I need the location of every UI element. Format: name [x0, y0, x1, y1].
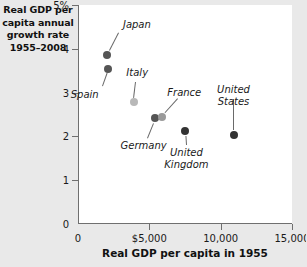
data-point-label-line: States — [217, 96, 250, 108]
y-axis-tick-label: 2 — [63, 131, 69, 142]
chart-figure: Real GDP percapita annualgrowth rate1955… — [0, 0, 306, 267]
leader-line — [102, 73, 108, 86]
x-axis-tick — [292, 224, 293, 230]
data-point-label: Japan — [123, 19, 151, 31]
y-axis-tick-label: 3 — [63, 87, 69, 98]
x-axis-tick-label: 15,000 — [275, 233, 307, 244]
y-axis-tick — [72, 180, 78, 181]
y-axis-tick — [72, 5, 78, 6]
leader-line — [185, 136, 187, 145]
data-point-label-line: Spain — [71, 89, 99, 101]
data-point-label: UnitedKingdom — [164, 147, 208, 170]
x-axis-tick-label: $5,000 — [132, 233, 167, 244]
data-point[interactable] — [230, 131, 238, 139]
data-point-label: France — [167, 87, 201, 99]
y-axis-tick-label: 1 — [63, 175, 69, 186]
data-point-label-line: France — [167, 87, 201, 99]
data-point-label-line: United — [217, 84, 250, 96]
data-point-label: Spain — [71, 89, 99, 101]
data-point-label: Germany — [121, 140, 167, 152]
data-point[interactable] — [103, 51, 111, 59]
data-point[interactable] — [181, 127, 189, 135]
leader-line — [165, 99, 178, 114]
data-point[interactable] — [104, 65, 112, 73]
y-axis-tick — [72, 136, 78, 137]
y-axis-tick — [72, 49, 78, 50]
x-axis-tick — [221, 224, 222, 230]
leader-line — [147, 123, 154, 138]
data-point-label-line: United — [164, 147, 208, 159]
data-point-label-line: Kingdom — [164, 159, 208, 171]
data-point[interactable] — [130, 98, 138, 106]
data-point-label: Italy — [126, 67, 148, 79]
data-point-label: UnitedStates — [217, 84, 250, 107]
data-point[interactable] — [158, 113, 166, 121]
x-axis-title: Real GDP per capita in 1955 — [78, 247, 292, 259]
x-axis-tick — [149, 224, 150, 230]
data-point-label-line: Japan — [123, 19, 151, 31]
chart-title-line-1: capita annual — [2, 17, 74, 30]
leader-line — [133, 82, 136, 98]
x-axis-tick-label: 0 — [75, 233, 81, 244]
data-point-label-line: Germany — [121, 140, 167, 152]
x-axis-tick-label: 10,000 — [203, 233, 238, 244]
chart-title-line-2: growth rate — [2, 29, 74, 42]
y-axis-tick-label: 5% — [53, 0, 69, 11]
data-point-label-line: Italy — [126, 67, 148, 79]
leader-line — [109, 32, 119, 51]
plot-area: 012345%0$5,00010,00015,000JapanSpainItal… — [78, 5, 292, 224]
y-axis-tick-label: 4 — [63, 43, 69, 54]
y-axis-tick-label: 0 — [63, 219, 69, 230]
